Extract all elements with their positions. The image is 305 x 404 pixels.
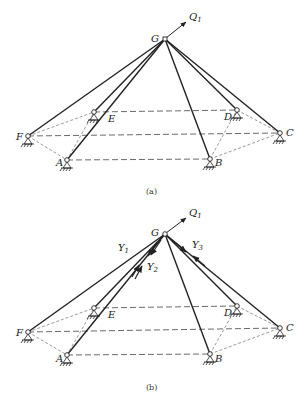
label-f: F [15, 131, 24, 142]
label-y3: Y3 [192, 239, 204, 252]
caption-a: (a) [146, 187, 157, 196]
legs [28, 39, 280, 160]
label-a: A [55, 353, 63, 364]
label-d: D [223, 111, 232, 122]
label-q1: Q1 [189, 11, 202, 24]
label-f: F [15, 327, 24, 338]
label-d: D [223, 307, 232, 318]
support-c [273, 135, 286, 144]
label-g: G [151, 227, 159, 238]
support-c [273, 330, 286, 339]
base-dashed-lines [28, 306, 280, 355]
label-q1: Q1 [189, 207, 202, 220]
mechanism-figure: G Q1 F E A B D C (a) [0, 0, 305, 404]
joint-b [208, 352, 213, 357]
joint-a [65, 158, 70, 163]
joint-b [208, 157, 213, 162]
legs [28, 234, 280, 355]
label-b: B [214, 157, 222, 168]
joint-c [278, 326, 283, 331]
label-c: C [286, 322, 294, 333]
label-e: E [107, 113, 116, 124]
joint-f [26, 134, 31, 139]
joint-f [26, 330, 31, 335]
joint-e [92, 110, 97, 115]
label-g: G [151, 33, 159, 44]
joint-d [235, 108, 240, 113]
joint-e [92, 306, 97, 311]
panel-b: G Q1 Y1 Y2 Y3 F E A B D C (b) [15, 207, 294, 392]
label-b: B [214, 353, 222, 364]
arrow-y2b-up [135, 266, 142, 279]
joint-g [163, 232, 168, 237]
joint-d [235, 304, 240, 309]
caption-b: (b) [146, 383, 157, 392]
label-y2: Y2 [147, 261, 159, 274]
force-arrow-q1 [166, 22, 186, 38]
joint-a [65, 353, 70, 358]
label-y1: Y1 [118, 242, 129, 255]
label-e: E [107, 309, 116, 320]
panel-a: G Q1 F E A B D C (a) [15, 11, 294, 196]
label-a: A [55, 157, 63, 168]
arrow-y3-down [172, 240, 186, 252]
joint-c [278, 131, 283, 136]
label-c: C [286, 127, 294, 138]
force-arrow-q1 [166, 218, 186, 233]
base-dashed-lines [28, 110, 280, 160]
joint-g [163, 37, 167, 41]
